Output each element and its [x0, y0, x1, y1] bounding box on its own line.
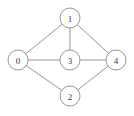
graph-edge-0-1 — [26, 24, 62, 53]
graph-node-label-1: 1 — [68, 14, 73, 24]
graph-node-2[interactable]: 2 — [60, 86, 80, 106]
graph-node-3[interactable]: 3 — [60, 50, 80, 70]
graph-node-label-3: 3 — [68, 56, 73, 66]
graph-edge-2-4 — [78, 66, 108, 90]
graph-node-4[interactable]: 4 — [106, 50, 126, 70]
graph-figure: 01234 — [0, 0, 134, 116]
graph-node-label-4: 4 — [114, 56, 119, 66]
graph-node-label-2: 2 — [68, 92, 73, 102]
graph-node-label-0: 0 — [16, 56, 21, 66]
graph-node-0[interactable]: 0 — [8, 50, 28, 70]
graph-edge-0-2 — [26, 66, 62, 91]
node-layer: 01234 — [8, 8, 126, 106]
graph-node-1[interactable]: 1 — [60, 8, 80, 28]
graph-canvas: 01234 — [0, 0, 134, 116]
graph-edge-1-4 — [77, 25, 108, 54]
